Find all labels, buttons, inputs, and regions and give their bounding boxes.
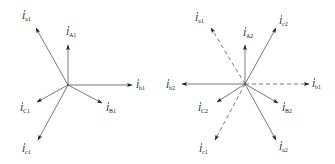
phasor-dot-mark [284,102,285,103]
phasor-label-ic2: Ic2 [278,16,288,27]
phasor-dot-mark [168,79,169,80]
phasor-label-ia2: Ia2 [278,142,288,153]
phasor-dot-mark [24,143,25,144]
phasor-label-ia1: Ia1 [194,13,204,24]
phasor-label-ia1: IA1 [65,27,76,38]
phasor-arrow-ia1 [36,28,68,85]
phasor-label-ic1: IC1 [19,103,30,114]
phasor-dot-mark [200,102,201,103]
phasor-dot-mark [108,102,109,103]
phasor-dot-mark [314,78,315,79]
phasor-label-ic2: IC2 [197,103,208,114]
phasor-dot-mark [281,15,282,16]
phasor-dot-mark [197,12,198,13]
phasor-arrow-ib1 [68,85,102,103]
phasor-label-ia2: IA2 [242,28,253,39]
phasor-arrow-ia2 [245,84,276,140]
phasor-dot-mark [245,27,246,28]
phasor-arrow-ic1 [215,84,245,140]
phasor-label-ib1: IB1 [105,103,116,114]
phasor-dot-mark [281,141,282,142]
phasor-label-ib2: IB2 [281,103,292,114]
phasor-arrow-ic2 [217,84,245,102]
phasor-label-ib2: Ib2 [165,80,175,91]
phasor-dot-mark [22,102,23,103]
negative-sequence-diagram: Ia1IA2Ic2Ib2Ib1IC2IB2Ic1Ia2 [165,12,321,155]
phasor-dot-mark [138,79,139,80]
phasor-dot-mark [68,26,69,27]
positive-sequence-diagram: Ia1IA1Ib1IB1IC1Ic1 [19,10,145,155]
phasor-label-ia1: Ia1 [21,11,31,22]
phasor-label-ic1: Ic1 [21,144,31,155]
phasor-label-ic1: Ic1 [198,144,208,155]
phasor-arrow-ia1 [211,28,245,84]
phasor-label-ib1: Ib1 [135,80,145,91]
phasor-diagram-canvas: Ia1IA1Ib1IB1IC1Ic1 Ia1IA2Ic2Ib2Ib1IC2IB2… [0,0,335,164]
phasor-label-ib1: Ib1 [311,79,321,90]
phasor-dot-mark [24,10,25,11]
phasor-dot-mark [201,143,202,144]
